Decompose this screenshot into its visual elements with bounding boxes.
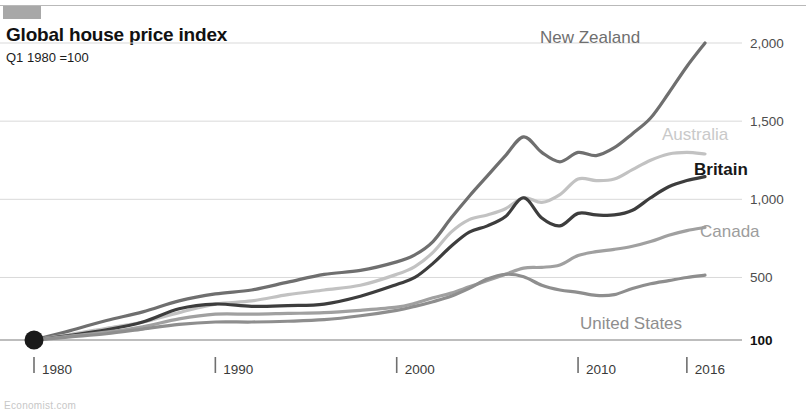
- y-tick-label: 1,500: [750, 114, 784, 129]
- chart-page: Global house price index Q1 1980 =100 10…: [0, 0, 806, 420]
- y-tick-label: 500: [750, 270, 773, 285]
- line-chart-svg: 1005001,0001,5002,000 198019902000201020…: [0, 0, 806, 420]
- x-tick-label: 2000: [405, 362, 435, 377]
- gridlines: [0, 43, 742, 340]
- series-label-united-states: United States: [580, 314, 682, 333]
- series-lines: [34, 43, 705, 340]
- series-label-australia: Australia: [662, 125, 729, 144]
- source-footer: Economist.com: [4, 400, 76, 411]
- x-tick-label: 2010: [586, 362, 616, 377]
- origin-dot-marker: [25, 331, 44, 350]
- y-tick-label: 1,000: [750, 192, 784, 207]
- x-axis-labels: 19801990200020102016: [42, 362, 725, 377]
- y-axis-labels: 1005001,0001,5002,000: [750, 36, 784, 348]
- series-label-new-zealand: New Zealand: [540, 28, 640, 47]
- series-line-australia: [34, 152, 705, 340]
- x-tick-label: 1980: [42, 362, 72, 377]
- y-tick-label: 100: [750, 333, 773, 348]
- x-tick-label: 1990: [223, 362, 253, 377]
- start-marker: [25, 331, 44, 350]
- series-label-britain: Britain: [694, 160, 748, 179]
- series-label-canada: Canada: [700, 222, 760, 241]
- chart-plot-area: 1005001,0001,5002,000 198019902000201020…: [0, 0, 806, 420]
- y-tick-label: 2,000: [750, 36, 784, 51]
- x-tick-label: 2016: [695, 362, 725, 377]
